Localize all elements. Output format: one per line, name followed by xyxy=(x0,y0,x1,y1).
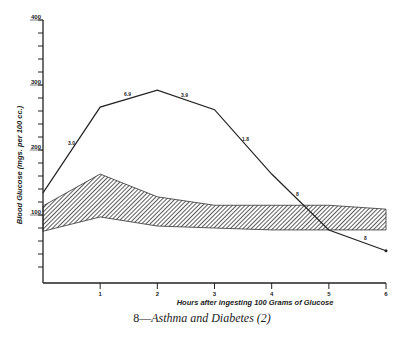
y-tick-label: 200 xyxy=(31,144,42,150)
x-tick-label: 1 xyxy=(98,291,102,297)
x-tick-label: 4 xyxy=(270,291,274,297)
caption-text: Asthma and Diabetes (2) xyxy=(151,311,271,325)
y-tick-label: 100 xyxy=(31,209,42,215)
x-axis-title: Hours after ingesting 100 Grams of Gluco… xyxy=(177,298,334,307)
figure-caption: 8—Asthma and Diabetes (2) xyxy=(0,311,404,326)
segment-annotation: 3.0 xyxy=(68,140,75,146)
segment-annotation: 1.8 xyxy=(242,136,249,142)
x-tick-label: 3 xyxy=(213,291,217,297)
y-axis-title: Blood Glucose (mgs. per 100 cc.) xyxy=(15,105,24,224)
normal-range-area xyxy=(43,174,386,231)
x-tick-label: 2 xyxy=(156,291,160,297)
axes: 100200300400123456 xyxy=(30,14,388,297)
segment-annotation: 8 xyxy=(296,191,299,197)
y-tick-label: 300 xyxy=(31,79,42,85)
x-tick-label: 5 xyxy=(327,291,331,297)
segment-annotation: 6.9 xyxy=(124,91,131,97)
end-point xyxy=(385,249,388,252)
y-tick-label: 400 xyxy=(31,14,42,20)
segment-annotation: 3.9 xyxy=(181,92,188,98)
x-tick-label: 6 xyxy=(384,291,388,297)
caption-number: 8— xyxy=(133,311,151,325)
glucose-chart: 100200300400123456 3.06.93.91.888 Hours … xyxy=(0,0,404,341)
normal-range-band xyxy=(43,174,386,231)
segment-annotation: 8 xyxy=(364,235,367,241)
